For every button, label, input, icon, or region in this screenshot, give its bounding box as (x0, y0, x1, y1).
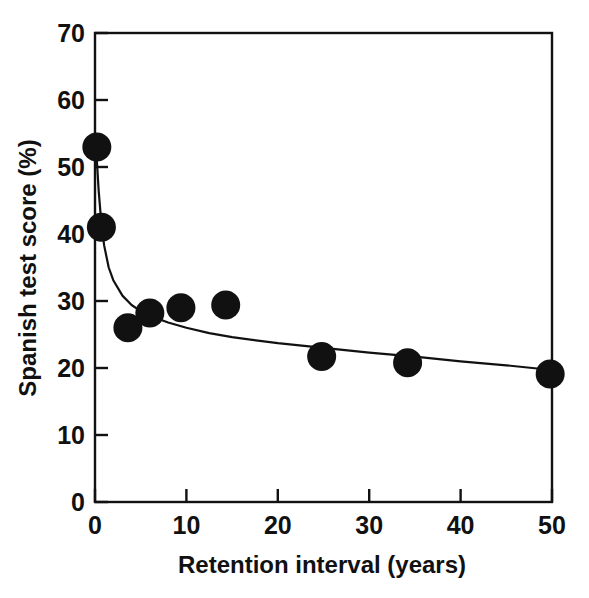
data-point (87, 213, 116, 242)
y-tick-label: 0 (71, 488, 85, 516)
y-tick-label: 50 (57, 153, 85, 181)
chart-figure: 0 10 20 30 40 50 60 70 0 10 20 30 40 50 … (0, 0, 589, 598)
data-point (135, 299, 164, 328)
y-tick-label: 40 (57, 220, 85, 248)
y-axis-title: Spanish test score (%) (14, 139, 41, 396)
fitted-curve (95, 134, 552, 371)
y-tick-marks (95, 33, 108, 502)
chart-canvas: 0 10 20 30 40 50 60 70 0 10 20 30 40 50 … (0, 0, 589, 598)
x-tick-label: 10 (172, 511, 200, 539)
data-point (393, 348, 422, 377)
y-tick-label: 20 (57, 354, 85, 382)
x-tick-label: 50 (538, 511, 566, 539)
x-tick-marks (95, 489, 552, 502)
data-point (536, 360, 565, 389)
data-point (82, 132, 111, 161)
data-point (307, 342, 336, 371)
x-tick-label: 30 (355, 511, 383, 539)
plot-frame (95, 33, 552, 502)
y-tick-label: 10 (57, 421, 85, 449)
x-axis-title: Retention interval (years) (178, 551, 466, 578)
x-tick-label: 40 (447, 511, 475, 539)
x-tick-label: 20 (264, 511, 292, 539)
data-point-group (82, 132, 564, 388)
x-tick-labels: 0 10 20 30 40 50 (88, 511, 566, 539)
data-point (166, 293, 195, 322)
y-tick-label: 70 (57, 19, 85, 47)
y-tick-label: 30 (57, 287, 85, 315)
y-tick-label: 60 (57, 86, 85, 114)
data-point (211, 291, 240, 320)
x-tick-label: 0 (88, 511, 102, 539)
y-tick-labels: 0 10 20 30 40 50 60 70 (57, 19, 85, 516)
